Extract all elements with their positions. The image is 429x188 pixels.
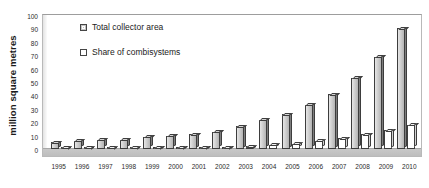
x-axis-tick-2002: 2002 xyxy=(211,163,234,170)
y-axis-tick-labels: 0102030405060708090100 xyxy=(20,14,40,157)
y-axis-title-text: million square metres xyxy=(7,35,18,135)
x-axis-tick-2004: 2004 xyxy=(257,163,280,170)
x-axis-tick-1999: 1999 xyxy=(141,163,164,170)
legend-swatch-share xyxy=(80,49,87,56)
plot-floor xyxy=(43,148,421,156)
bar-2009-series-2 xyxy=(384,130,392,149)
bar-2005-series-1 xyxy=(282,114,290,149)
chart-legend: Total collector areaShare of combisystem… xyxy=(80,22,180,72)
x-axis-tick-2006: 2006 xyxy=(304,163,327,170)
bar-2008-series-2 xyxy=(361,134,369,149)
bar-1997-series-2 xyxy=(107,147,115,149)
bar-1996-series-1 xyxy=(74,141,82,149)
bar-group-2010 xyxy=(395,17,418,149)
bar-2005-series-2 xyxy=(292,144,300,149)
y-axis-tick-70: 70 xyxy=(31,53,38,60)
y-axis-tick-50: 50 xyxy=(31,80,38,87)
y-axis-tick-100: 100 xyxy=(27,13,38,20)
y-axis-tick-40: 40 xyxy=(31,93,38,100)
bar-2001-series-2 xyxy=(199,147,207,149)
bar-2004-series-1 xyxy=(259,120,267,149)
bar-2003-series-2 xyxy=(246,146,254,149)
bar-group-2001 xyxy=(187,17,210,149)
x-axis-tick-2010: 2010 xyxy=(398,163,421,170)
bar-1997-series-1 xyxy=(97,140,105,149)
solar-collector-area-bar-chart: million square metres 010203040506070809… xyxy=(0,0,429,188)
bar-2010-series-1 xyxy=(397,28,405,149)
legend-label-1: Total collector area xyxy=(92,22,163,32)
bar-2000-series-2 xyxy=(176,147,184,149)
bar-group-1995 xyxy=(48,17,71,149)
y-axis-tick-0: 0 xyxy=(34,147,38,154)
legend-label-2: Share of combisystems xyxy=(92,47,180,57)
x-axis-tick-1997: 1997 xyxy=(94,163,117,170)
x-axis-tick-labels: 1995199619971998199920002001200220032004… xyxy=(47,163,421,170)
bar-2002-series-2 xyxy=(222,147,230,149)
bar-1998-series-1 xyxy=(120,140,128,149)
y-axis-tick-20: 20 xyxy=(31,120,38,127)
legend-entry-2: Share of combisystems xyxy=(80,47,180,57)
x-axis-tick-2009: 2009 xyxy=(374,163,397,170)
bar-2000-series-1 xyxy=(166,136,174,149)
bar-2003-series-1 xyxy=(236,126,244,149)
legend-entry-1: Total collector area xyxy=(80,22,180,32)
bar-2001-series-1 xyxy=(189,134,197,149)
bar-2006-series-1 xyxy=(305,105,313,149)
y-axis-tick-60: 60 xyxy=(31,66,38,73)
y-axis-tick-90: 90 xyxy=(31,26,38,33)
bar-2009-series-1 xyxy=(374,57,382,149)
x-axis-tick-2000: 2000 xyxy=(164,163,187,170)
bar-2006-series-2 xyxy=(315,141,323,149)
x-axis-tick-2003: 2003 xyxy=(234,163,257,170)
x-axis-tick-2001: 2001 xyxy=(187,163,210,170)
y-axis-tick-30: 30 xyxy=(31,106,38,113)
bar-1995-series-2 xyxy=(61,147,69,149)
bar-2010-series-2 xyxy=(407,125,415,149)
bar-group-2005 xyxy=(279,17,302,149)
x-axis-tick-1996: 1996 xyxy=(70,163,93,170)
x-axis-tick-2007: 2007 xyxy=(328,163,351,170)
bar-group-2009 xyxy=(372,17,395,149)
bar-group-2003 xyxy=(233,17,256,149)
x-axis-tick-2008: 2008 xyxy=(351,163,374,170)
x-axis-tick-2005: 2005 xyxy=(281,163,304,170)
y-axis-tick-10: 10 xyxy=(31,133,38,140)
bar-1995-series-1 xyxy=(51,142,59,149)
y-axis-tick-80: 80 xyxy=(31,39,38,46)
bar-2008-series-1 xyxy=(351,78,359,149)
bar-group-2004 xyxy=(256,17,279,149)
bar-group-2002 xyxy=(210,17,233,149)
plot-left-wall xyxy=(43,15,47,156)
bar-2002-series-1 xyxy=(212,132,220,149)
bar-group-2008 xyxy=(349,17,372,149)
bar-1998-series-2 xyxy=(130,147,138,149)
x-axis-tick-1995: 1995 xyxy=(47,163,70,170)
legend-swatch-total xyxy=(80,24,87,31)
bar-2007-series-2 xyxy=(338,138,346,149)
x-axis-tick-1998: 1998 xyxy=(117,163,140,170)
bar-1996-series-2 xyxy=(84,147,92,149)
bar-group-2007 xyxy=(326,17,349,149)
bar-2004-series-2 xyxy=(269,145,277,149)
bar-1999-series-1 xyxy=(143,137,151,149)
bar-1999-series-2 xyxy=(153,147,161,149)
bar-2007-series-1 xyxy=(328,94,336,149)
bar-group-2006 xyxy=(302,17,325,149)
